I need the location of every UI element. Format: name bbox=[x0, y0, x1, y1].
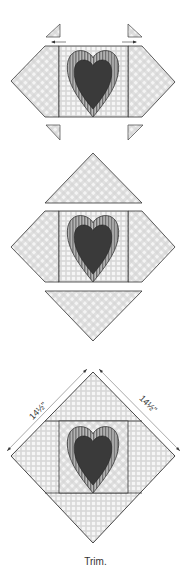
quilt-block-diagram: 14½" 14½" bbox=[0, 0, 191, 576]
caption: Trim. bbox=[0, 556, 191, 567]
corner-triangle-bottom-left bbox=[46, 125, 60, 140]
right-side-piece bbox=[128, 46, 175, 117]
corner-triangle-top-left bbox=[46, 24, 60, 37]
bottom-setting-triangle bbox=[45, 291, 142, 341]
arrow-left-head bbox=[51, 41, 55, 44]
top-setting-triangle bbox=[45, 153, 142, 203]
arrow-right-head bbox=[133, 41, 137, 44]
step-3-group: 14½" 14½" bbox=[7, 369, 180, 543]
left-side-piece bbox=[11, 211, 59, 282]
left-side-piece bbox=[11, 46, 59, 117]
corner-triangle-bottom-right bbox=[128, 125, 143, 140]
right-side-piece bbox=[128, 211, 175, 282]
dimension-label-left: 14½" bbox=[27, 400, 49, 422]
step-1-group bbox=[11, 24, 175, 140]
step-2-group bbox=[11, 153, 175, 341]
corner-triangle-top-right bbox=[128, 24, 142, 37]
dimension-label-right: 14½" bbox=[137, 393, 159, 415]
